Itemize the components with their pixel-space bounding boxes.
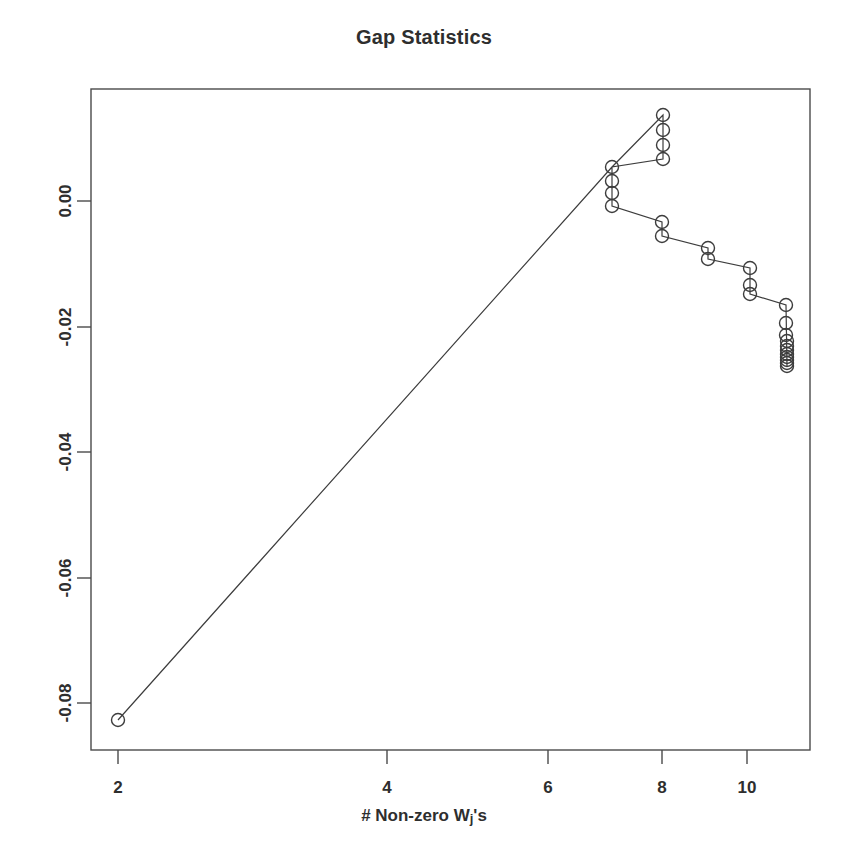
y-axis-ticks: 0.00-0.02-0.04-0.06-0.08 <box>56 184 92 722</box>
y-tick-label: -0.02 <box>56 308 75 347</box>
y-tick-label: 0.00 <box>56 184 75 217</box>
x-axis-ticks: 246810 <box>113 750 756 797</box>
x-tick-label: 2 <box>113 778 122 797</box>
y-tick-label: -0.06 <box>56 559 75 598</box>
x-axis-label-main: # Non-zero W <box>361 806 470 825</box>
x-tick-label: 4 <box>382 778 392 797</box>
data-series <box>112 109 794 727</box>
plot-frame <box>91 89 810 750</box>
y-tick-label: -0.08 <box>56 684 75 723</box>
series-line <box>118 115 787 720</box>
x-tick-label: 10 <box>738 778 757 797</box>
x-axis-label-tail: 's <box>473 806 487 825</box>
x-tick-label: 6 <box>543 778 552 797</box>
x-tick-label: 8 <box>657 778 666 797</box>
gap-statistics-figure: Gap Statistics 246810 0.00-0.02-0.04-0.0… <box>0 0 848 847</box>
plot-area: 246810 0.00-0.02-0.04-0.06-0.08 <box>0 0 848 847</box>
x-axis-label: # Non-zero Wj's <box>0 806 848 826</box>
series-markers <box>112 109 794 727</box>
y-tick-label: -0.04 <box>56 432 75 471</box>
